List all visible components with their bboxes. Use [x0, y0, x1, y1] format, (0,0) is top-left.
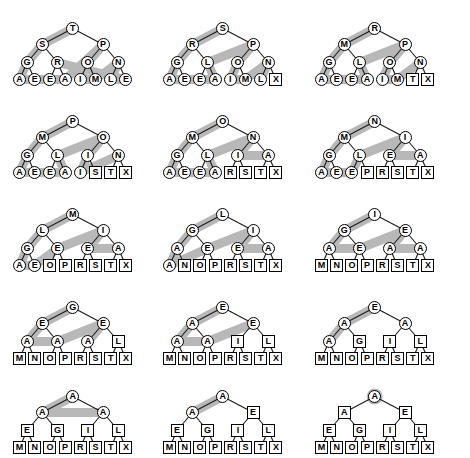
heap-node: L: [201, 56, 214, 69]
sorted-node: N: [178, 441, 191, 454]
heap-highlight-path: [20, 29, 126, 80]
sorted-node: P: [361, 352, 374, 365]
sorted-node: P: [209, 441, 222, 454]
sorted-node: X: [119, 166, 132, 179]
sorted-node: T: [254, 166, 267, 179]
sorted-node: X: [119, 352, 132, 365]
sorted-node: O: [43, 259, 56, 272]
sorted-node: G: [353, 335, 366, 348]
sorted-node: M: [163, 352, 176, 365]
sorted-node: S: [391, 166, 404, 179]
heap-node: A: [163, 73, 176, 86]
sorted-node: P: [209, 259, 222, 272]
sorted-node: L: [414, 335, 427, 348]
sorted-node: R: [224, 352, 237, 365]
heap-panel: GEEAAALMNOPRSTX: [5, 283, 157, 375]
sorted-node: E: [21, 424, 34, 437]
sorted-node: M: [163, 441, 176, 454]
sorted-node: L: [112, 335, 125, 348]
heap-node: E: [51, 242, 64, 255]
heap-node: N: [112, 56, 125, 69]
heap-node: A: [338, 317, 351, 330]
sorted-node: S: [391, 352, 404, 365]
sorted-node: M: [315, 441, 328, 454]
heap-node: E: [201, 242, 214, 255]
heap-node: G: [323, 56, 336, 69]
heap-panel: EAEAAILMNOPRSTX: [155, 283, 307, 375]
heap-node: M: [338, 38, 351, 51]
heap-node: A: [13, 166, 26, 179]
sorted-node: O: [193, 352, 206, 365]
heap-node: N: [112, 149, 125, 162]
heap-node: A: [163, 166, 176, 179]
sorted-node: T: [254, 441, 267, 454]
heap-panel: EAAAGILMNOPRSTX: [307, 283, 459, 375]
heap-node: I: [376, 73, 389, 86]
heap-panel: IGEAEAAMNOPRSTX: [307, 190, 459, 282]
heap-node: M: [391, 73, 404, 86]
heap-node: I: [97, 224, 110, 237]
sorted-node: S: [239, 441, 252, 454]
sorted-node: N: [330, 441, 343, 454]
heap-node: I: [74, 73, 87, 86]
heap-node: M: [186, 131, 199, 144]
heap-node: A: [186, 406, 199, 419]
sorted-node: S: [89, 352, 102, 365]
sorted-node: S: [89, 259, 102, 272]
heap-node: A: [209, 166, 222, 179]
sorted-node: P: [59, 259, 72, 272]
heap-node: E: [36, 317, 49, 330]
heap-node: G: [21, 149, 34, 162]
heap-panel: AAEEGILMNOPRSTX: [155, 372, 307, 458]
heap-panel: PMOGLINAEEAISTX: [5, 97, 157, 189]
heap-node: A: [315, 166, 328, 179]
sorted-node: N: [178, 259, 191, 272]
sorted-node: T: [406, 259, 419, 272]
heap-node: G: [171, 149, 184, 162]
heap-node: O: [97, 131, 110, 144]
sorted-node: X: [421, 166, 434, 179]
sorted-node: P: [59, 441, 72, 454]
heap-node: N: [262, 56, 275, 69]
heap-node: A: [186, 317, 199, 330]
sorted-node: M: [13, 441, 26, 454]
sorted-node: I: [231, 424, 244, 437]
sorted-node: T: [406, 73, 419, 86]
sorted-node: I: [81, 424, 94, 437]
sorted-node: P: [59, 352, 72, 365]
heap-panel: NMIGLEAAEEPRSTX: [307, 97, 459, 189]
heap-node: I: [247, 224, 260, 237]
sorted-node: S: [89, 441, 102, 454]
heap-node: A: [21, 335, 34, 348]
heap-node: L: [51, 149, 64, 162]
sorted-node: O: [193, 441, 206, 454]
heap-node: G: [338, 224, 351, 237]
heap-node: P: [399, 38, 412, 51]
sorted-node: E: [399, 406, 412, 419]
heap-node: L: [353, 149, 366, 162]
sorted-node: O: [345, 441, 358, 454]
heap-node: M: [338, 131, 351, 144]
heap-node: A: [201, 335, 214, 348]
heap-node: L: [36, 224, 49, 237]
sorted-node: E: [171, 424, 184, 437]
sorted-node: S: [239, 166, 252, 179]
heap-panel: MLIGEEAAEOPRSTX: [5, 190, 157, 282]
heap-node: A: [414, 149, 427, 162]
sorted-node: G: [51, 424, 64, 437]
heap-panel: LGIAEEAANOPRSTX: [155, 190, 307, 282]
sorted-node: T: [406, 441, 419, 454]
heap-node: A: [323, 335, 336, 348]
sorted-node: R: [74, 259, 87, 272]
heap-node: G: [21, 56, 34, 69]
sorted-node: M: [315, 259, 328, 272]
heap-highlight-path: [329, 308, 375, 342]
sorted-node: T: [104, 352, 117, 365]
sorted-node: N: [28, 441, 41, 454]
heap-panel: AAEEGILMNOPRSTX: [307, 372, 459, 458]
heap-node: N: [247, 131, 260, 144]
sorted-node: T: [406, 166, 419, 179]
sorted-node: L: [414, 424, 427, 437]
heap-node: G: [323, 149, 336, 162]
sorted-node: R: [376, 352, 389, 365]
